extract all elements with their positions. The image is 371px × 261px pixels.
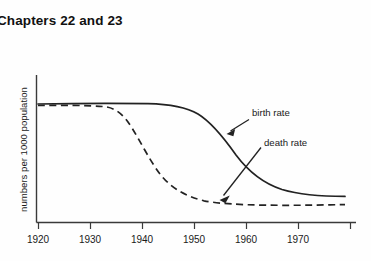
x-tick-label-1960: 1960: [235, 234, 258, 245]
x-tick-label-1970: 1970: [287, 234, 310, 245]
x-tick-label-1950: 1950: [183, 234, 206, 245]
page-title: Chapters 22 and 23: [0, 13, 123, 28]
series-line-death-rate: [38, 105, 345, 205]
annotation-label-birth-rate: birth rate: [252, 107, 290, 118]
arrow-head-death-rate: [220, 196, 230, 204]
x-tick-label-1930: 1930: [79, 234, 102, 245]
series-line-birth-rate: [38, 103, 345, 196]
x-axis-ticks: [39, 223, 351, 230]
annotation-birth-rate: birth rate: [227, 107, 290, 136]
annotation-death-rate: death rate: [220, 137, 308, 203]
x-tick-label-1920: 1920: [27, 234, 50, 245]
y-axis-label: numbers per 1000 population: [18, 75, 29, 225]
annotation-label-death-rate: death rate: [264, 137, 307, 148]
page-root: Chapters 22 and 23 numbers per 1000 popu…: [0, 0, 371, 261]
chart-figure: numbers per 1000 population 1920 1930 19…: [0, 56, 371, 261]
x-tick-label-1940: 1940: [131, 234, 154, 245]
chart-plot-area: 1920 1930 1940 1950 1960 1970 birth rate…: [0, 56, 371, 261]
